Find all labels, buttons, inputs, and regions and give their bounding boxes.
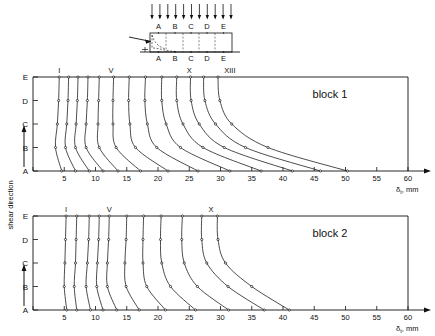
panel-block-1: EDCBA 51015202530354045505560 IVXXIII bl… (22, 66, 431, 195)
curve-label-V: V (109, 66, 114, 75)
data-point (156, 146, 158, 148)
x-axis-arrowhead (424, 169, 431, 174)
curve-label-X: X (187, 66, 192, 75)
x-tick-label-20: 20 (154, 174, 162, 183)
data-point (113, 76, 115, 78)
load-arrowhead (198, 15, 201, 20)
data-point (198, 123, 200, 125)
measurement-point (206, 51, 208, 53)
x-tick-label-15: 15 (123, 313, 131, 322)
x-tick-label-50: 50 (341, 174, 349, 183)
data-point (196, 285, 198, 287)
x-axis-label: δt, mm (396, 324, 418, 334)
curve-label-V: V (107, 205, 112, 214)
y-axis-label-d: D (22, 236, 28, 245)
x-tick-label-10: 10 (91, 313, 99, 322)
load-arrowhead (174, 15, 177, 20)
data-point (144, 99, 146, 101)
measurement-point (174, 51, 176, 53)
data-point (346, 170, 348, 172)
data-point (146, 285, 148, 287)
data-point (194, 309, 196, 311)
data-point (116, 309, 118, 311)
data-point (86, 99, 88, 101)
load-arrowhead (229, 15, 232, 20)
data-point (64, 262, 66, 264)
panel2-y-labels: EDCBA (22, 212, 38, 315)
schematic-label-top-c: C (188, 22, 194, 31)
data-point (76, 309, 78, 311)
data-point (73, 285, 75, 287)
measurement-point (174, 32, 175, 33)
data-point (203, 76, 205, 78)
x-axis-label: δt, mm (396, 185, 418, 195)
data-point (85, 123, 87, 125)
data-point (176, 99, 178, 101)
schematic-label-bottom-d: D (204, 54, 210, 63)
curve-label-I: I (58, 66, 60, 75)
deformation-curve-XI (217, 216, 289, 310)
data-point (142, 262, 144, 264)
data-point (146, 123, 148, 125)
x-tick-label-55: 55 (373, 174, 381, 183)
data-point (67, 99, 69, 101)
data-point (181, 215, 183, 217)
measurement-points (158, 32, 225, 53)
specimen-block (150, 33, 232, 52)
data-point (96, 262, 98, 264)
x-tick-label-30: 30 (216, 174, 224, 183)
deformation-curve-X (201, 216, 264, 310)
data-point (89, 309, 91, 311)
data-point (288, 309, 290, 311)
data-point (88, 170, 90, 172)
data-point (139, 170, 141, 172)
y-axis-label-b: B (23, 283, 28, 292)
data-point (102, 170, 104, 172)
x-tick-label-5: 5 (62, 174, 66, 183)
load-arrows (150, 4, 232, 20)
data-point (76, 215, 78, 217)
x-tick-label-60: 60 (404, 313, 412, 322)
curve-label-I: I (65, 205, 67, 214)
x-tick-label-25: 25 (185, 174, 193, 183)
schematic-top-labels: ABCDE (156, 22, 226, 31)
data-point (98, 99, 100, 101)
y-axis-label-a: A (23, 306, 29, 315)
data-point (75, 238, 77, 240)
deformed-profile (152, 35, 176, 52)
x-tick-label-35: 35 (248, 313, 256, 322)
schematic-label-top-e: E (221, 22, 226, 31)
data-point (227, 285, 229, 287)
data-point (74, 170, 76, 172)
x-tick-label-40: 40 (279, 174, 287, 183)
x-tick-label-30: 30 (216, 313, 224, 322)
measurement-point (190, 51, 192, 53)
data-point (96, 285, 98, 287)
data-point (169, 285, 171, 287)
x-tick-label-55: 55 (373, 313, 381, 322)
data-point (214, 123, 216, 125)
data-point (74, 146, 76, 148)
measurement-point (223, 32, 224, 33)
data-point (98, 76, 100, 78)
data-point (161, 99, 163, 101)
data-point (98, 215, 100, 217)
data-point (87, 76, 89, 78)
panel1-x-ticks: 51015202530354045505560 (33, 167, 412, 183)
data-point (189, 76, 191, 78)
measurement-point (158, 32, 159, 33)
data-point (56, 123, 58, 125)
measurement-point (190, 32, 191, 33)
data-point (58, 76, 60, 78)
data-point (231, 123, 233, 125)
data-point (108, 238, 110, 240)
schematic-label-bottom-e: E (221, 54, 226, 63)
data-point (263, 309, 265, 311)
data-point (97, 123, 99, 125)
panel-block-2: EDCBA 51015202530354045505560 IVX block … (22, 205, 431, 334)
data-point (128, 99, 130, 101)
data-point (176, 76, 178, 78)
data-point (125, 238, 127, 240)
x-tick-label-45: 45 (310, 174, 318, 183)
data-point (138, 309, 140, 311)
